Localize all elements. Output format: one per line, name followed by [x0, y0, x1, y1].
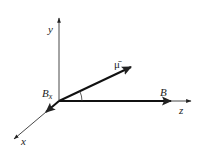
angle-arc: [80, 91, 82, 101]
mu-label: μ̄: [114, 58, 122, 70]
vector-diagram: y z x μ̄ B Bx: [0, 0, 203, 156]
b-label: B: [160, 86, 167, 98]
bx-label: Bx: [42, 87, 53, 101]
z-axis-label: z: [178, 104, 184, 116]
bx-label-subscript: x: [48, 92, 53, 101]
bx-vector: [46, 101, 59, 112]
y-axis-label: y: [47, 23, 53, 35]
mu-vector: [59, 67, 131, 101]
x-axis-label: x: [20, 135, 26, 147]
